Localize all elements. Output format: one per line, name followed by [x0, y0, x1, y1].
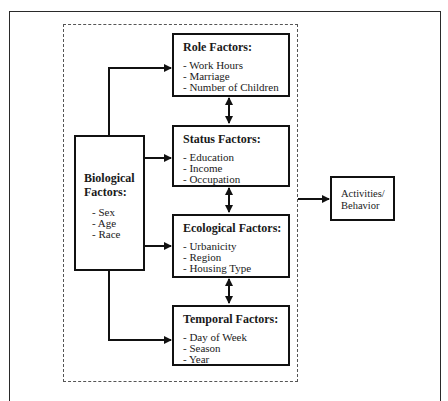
arrow-bio-to-temporal — [109, 271, 171, 340]
role-factors-title: Role Factors: — [183, 40, 288, 54]
list-item: Race — [92, 229, 143, 240]
status-factors-title: Status Factors: — [183, 132, 288, 146]
ecological-factors-list: Urbanicity Region Housing Type — [183, 241, 288, 274]
temporal-factors-title: Temporal Factors: — [183, 312, 288, 326]
behavior-label: Behavior — [341, 200, 393, 212]
ecological-factors-title: Ecological Factors: — [183, 221, 288, 235]
status-factors-box: Status Factors: Education Income Occupat… — [172, 125, 290, 187]
biological-factors-list: Sex Age Race — [84, 207, 143, 240]
list-item: Year — [183, 354, 288, 365]
biological-factors-box: Biological Factors: Sex Age Race — [74, 135, 145, 271]
activities-behavior-box: Activities/ Behavior — [330, 176, 395, 221]
list-item: Occupation — [183, 174, 288, 185]
role-factors-box: Role Factors: Work Hours Marriage Number… — [172, 33, 290, 97]
role-factors-list: Work Hours Marriage Number of Children — [183, 60, 288, 93]
activities-label: Activities/ — [341, 188, 393, 200]
temporal-factors-list: Day of Week Season Year — [183, 332, 288, 365]
arrow-bio-to-role — [109, 68, 171, 135]
list-item: Number of Children — [183, 82, 288, 93]
biological-factors-title: Biological Factors: — [84, 171, 143, 199]
temporal-factors-box: Temporal Factors: Day of Week Season Yea… — [172, 305, 290, 366]
ecological-factors-box: Ecological Factors: Urbanicity Region Ho… — [172, 214, 290, 278]
status-factors-list: Education Income Occupation — [183, 152, 288, 185]
list-item: Housing Type — [183, 263, 288, 274]
